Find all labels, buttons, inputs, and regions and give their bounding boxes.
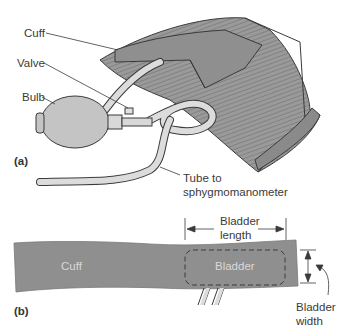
bladder-length-line2: length (220, 229, 251, 242)
valve-callout: Valve (17, 57, 45, 70)
cuff-inner-label: Cuff (61, 260, 82, 272)
valve (125, 108, 133, 114)
bladder-inner-label: Bladder (215, 260, 255, 272)
bladder-length-line1: Bladder (220, 215, 260, 228)
cuff-flat (14, 240, 298, 305)
cuff-wrapped (100, 18, 320, 172)
panel-a-label: (a) (14, 155, 28, 167)
bladder-width-line2: width (296, 315, 323, 328)
tube-callout-line1: Tube to (183, 172, 222, 185)
bulb (36, 96, 152, 148)
bulb-callout: Bulb (22, 91, 45, 104)
panel-b-label: (b) (14, 305, 29, 317)
diagram-artwork (0, 0, 343, 336)
bladder-width-line1: Bladder (296, 301, 336, 314)
cuff-callout: Cuff (24, 27, 45, 40)
tube-callout-line2: sphygmomanometer (183, 186, 288, 199)
